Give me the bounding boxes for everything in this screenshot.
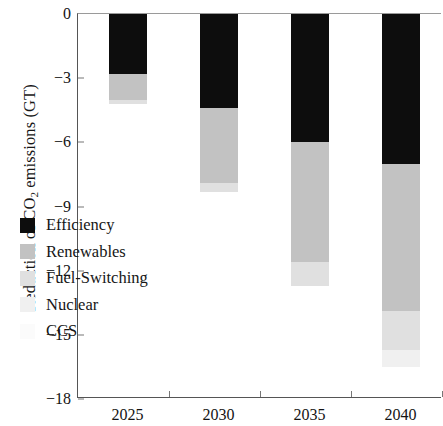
x-axis-tick-label: 2040 [385, 406, 417, 424]
legend-item-label: Renewables [46, 244, 126, 261]
legend-item-efficiency: Efficiency [20, 212, 210, 239]
x-axis-tick-mark [260, 391, 261, 397]
bar-segment-efficiency [291, 14, 329, 142]
bar-segment-fuel-switching [382, 311, 420, 350]
bar-segment-nuclear [382, 350, 420, 367]
bar-segment-renewables [109, 74, 147, 100]
y-axis-title-post: emissions (GT) [20, 84, 39, 192]
legend-item-label: Nuclear [46, 297, 98, 314]
legend-swatch-icon [20, 218, 35, 233]
bar-segment-renewables [382, 164, 420, 312]
legend-swatch-icon [20, 297, 35, 312]
y-axis-tick-mark [78, 78, 84, 79]
legend-swatch-icon [20, 324, 35, 339]
bar-2040 [382, 14, 420, 399]
x-axis-tick-mark [169, 391, 170, 397]
legend: EfficiencyRenewablesFuel-SwitchingNuclea… [20, 212, 210, 345]
bar-segment-renewables [291, 142, 329, 262]
y-axis-tick-mark [78, 206, 84, 207]
bar-segment-renewables [200, 108, 238, 183]
y-axis-tick-mark [78, 142, 84, 143]
x-axis-tick-label: 2035 [294, 406, 326, 424]
legend-item-nuclear: Nuclear [20, 292, 210, 319]
bar-segment-efficiency [109, 14, 147, 74]
legend-item-renewables: Renewables [20, 239, 210, 266]
y-axis-tick-label: −6 [54, 133, 71, 151]
x-axis-tick-mark [351, 391, 352, 397]
bar-segment-fuel-switching [291, 262, 329, 286]
bar-segment-fuel-switching [200, 183, 238, 192]
y-axis-tick-label: −3 [54, 69, 71, 87]
bar-2035 [291, 14, 329, 399]
y-axis-tick-mark [78, 399, 84, 400]
y-axis-tick-label: 0 [63, 5, 71, 23]
bar-segment-efficiency [200, 14, 238, 108]
legend-item-ccs: CCS [20, 318, 210, 345]
y-axis-title-subscript: 2 [28, 192, 40, 198]
chart-figure: Reduction of CO2 emissions (GT) 0−3−6−9−… [0, 0, 443, 426]
legend-swatch-icon [20, 244, 35, 259]
legend-item-fuel-switching: Fuel-Switching [20, 265, 210, 292]
bar-segment-efficiency [382, 14, 420, 164]
x-axis-tick-label: 2025 [112, 406, 144, 424]
y-axis-tick-label: −18 [46, 390, 71, 408]
legend-swatch-icon [20, 271, 35, 286]
legend-item-label: Fuel-Switching [46, 270, 148, 287]
legend-item-label: CCS [46, 323, 77, 340]
x-axis-tick-label: 2030 [203, 406, 235, 424]
legend-item-label: Efficiency [46, 217, 114, 234]
bar-segment-fuel-switching [109, 100, 147, 104]
